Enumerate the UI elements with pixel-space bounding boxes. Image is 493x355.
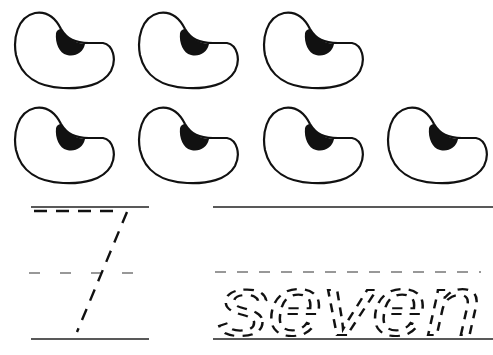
bean-icon [262,106,364,186]
number-tracing-area[interactable]: 7 [0,195,170,350]
bean-icon [137,11,239,91]
traceable-word: seven [219,257,481,350]
bean-icon [262,11,364,91]
bean-icon [137,106,239,186]
bean-icon [13,106,115,186]
bean-icon [13,11,115,91]
bean-icon [386,106,488,186]
worksheet: 7 seven seven [0,0,493,355]
word-tracing-area[interactable]: seven seven [205,195,493,350]
